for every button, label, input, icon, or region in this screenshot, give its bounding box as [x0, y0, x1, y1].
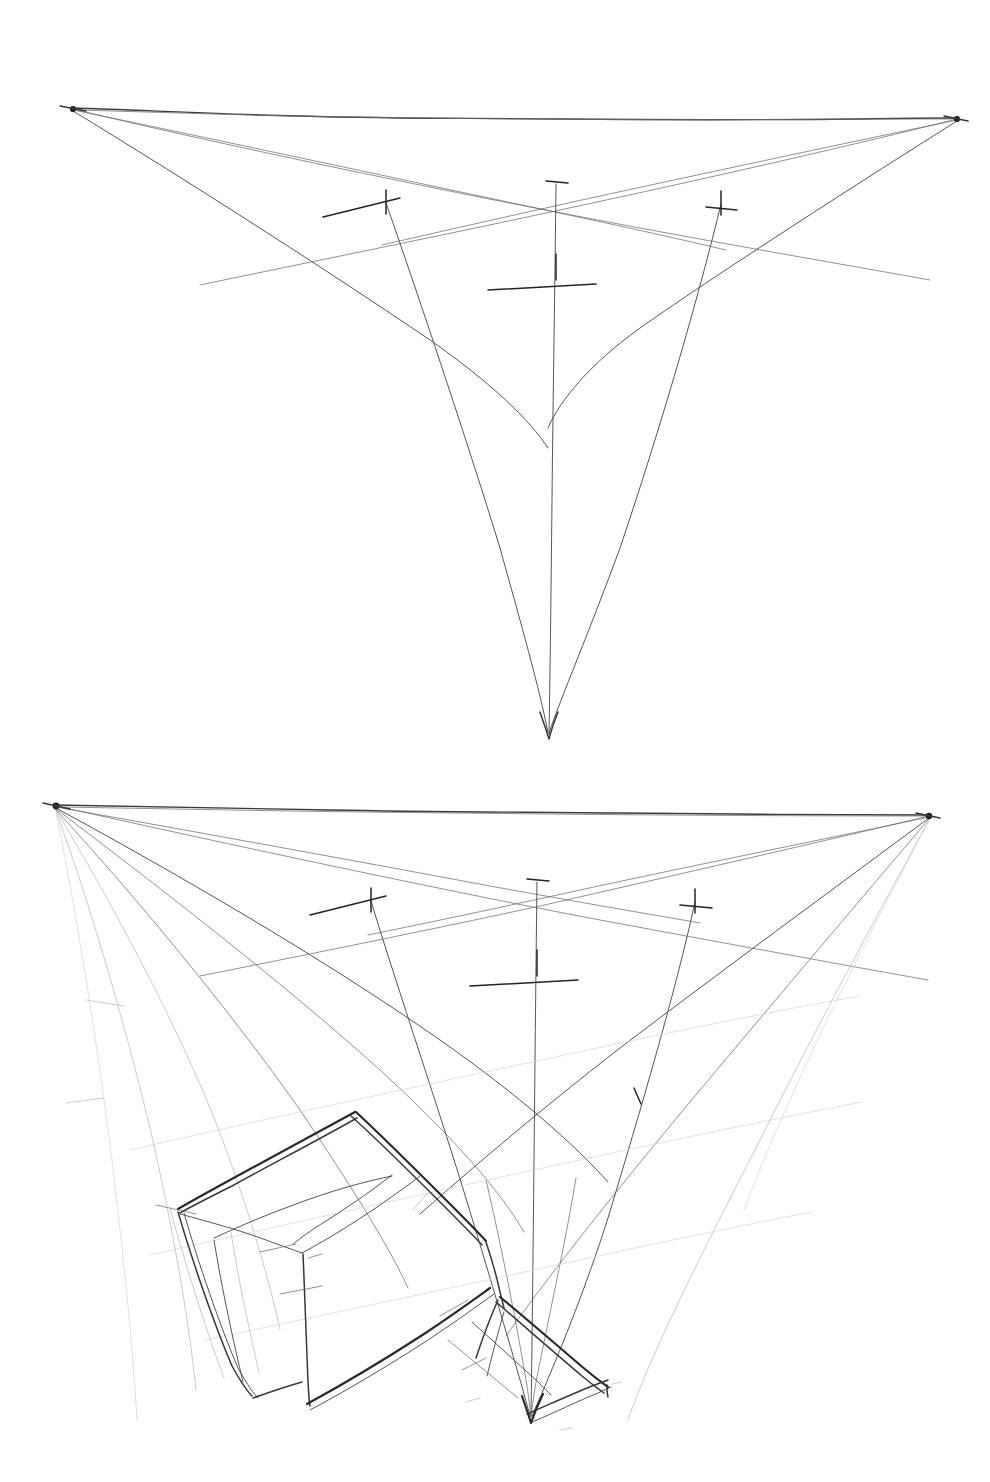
ray-right-to-mark-left: [382, 120, 957, 245]
ray-right-fan-2: [368, 817, 929, 935]
box-facade-line-c: [170, 1208, 224, 1378]
box-stray-mark-a: [260, 1244, 296, 1252]
mark-ray-intersection-bottom: [634, 1088, 641, 1104]
ray-left-fan-5: [56, 810, 408, 1288]
guide-diagonal-b: [150, 1102, 862, 1255]
box-edge-front-vertical: [303, 1254, 310, 1406]
mark-near-left-corner-top: [323, 190, 400, 217]
box-base-edge-front: [307, 1288, 490, 1404]
box-stray-mark-d: [280, 1286, 322, 1294]
wing-inner-line-c: [448, 1340, 518, 1398]
ray-left-fan-1: [56, 806, 928, 980]
mark-back-corner-bottom: [527, 879, 549, 881]
vertical-extra-a: [486, 1180, 531, 1417]
vertical-left-to-vp-bottom: [386, 203, 548, 733]
vertical-left-bottom: [371, 901, 530, 1416]
wing-base-edge: [527, 1380, 608, 1414]
ray-left-fan-6: [56, 810, 280, 1330]
perspective-sketch-canvas: [0, 0, 990, 1482]
tick-mark-guide-b: [66, 1098, 104, 1103]
box-edge-left-vertical: [178, 1212, 252, 1396]
vertical-right-bottom: [532, 902, 695, 1416]
guide-diagonal-a: [130, 996, 860, 1150]
tick-mark-guide-a: [86, 1000, 124, 1006]
ray-left-to-right-near: [73, 109, 930, 280]
box-stray-mark-b: [308, 1254, 322, 1258]
ray-left-to-mark-right: [73, 110, 726, 250]
mark-near-right-corner-top: [706, 191, 737, 215]
ray-right-fan-4: [506, 819, 929, 1336]
wing-stray-e: [466, 1398, 480, 1402]
box-stray-mark-c: [156, 1205, 196, 1214]
mark-near-left-corner-bottom: [310, 888, 386, 915]
mark-front-corner-bottom: [470, 950, 578, 986]
ray-right-down-long: [548, 121, 957, 428]
wing-stray-c: [612, 1382, 622, 1384]
box-roof-far-left: [180, 1214, 302, 1253]
ray-left-fan-4: [56, 809, 524, 1232]
drawing-sheet: Three-Point Perspective Construction Stu…: [0, 0, 990, 1482]
wing-inner-line-a: [472, 1322, 551, 1395]
box-roof-far-right: [302, 1176, 420, 1253]
ray-left-fan-2: [56, 807, 700, 923]
wing-ridge: [500, 1297, 608, 1387]
box-facade-line-a: [214, 1240, 243, 1382]
box-roof-edge-right: [356, 1112, 486, 1241]
panel-top: [60, 106, 968, 739]
mark-back-corner-top: [546, 181, 568, 183]
box-facade-line-b: [230, 1226, 259, 1372]
vertical-center-to-vp-bottom: [549, 184, 556, 734]
ray-right-fan-6: [744, 820, 929, 1210]
box-base-edge-front-echo: [310, 1294, 494, 1410]
box-roof-edge-left-echo: [180, 1118, 357, 1213]
ray-right-fan-3: [420, 818, 929, 1214]
box-roof-edge-left: [178, 1112, 355, 1209]
sketched-box: [156, 1112, 504, 1410]
ray-left-fan-7: [56, 811, 196, 1390]
box-roof-inner-ridge: [293, 1175, 392, 1244]
ray-left-fan-3: [56, 808, 608, 1182]
wing-ridge-echo: [496, 1302, 604, 1393]
vertical-right-to-vp-bottom: [549, 204, 721, 733]
mark-front-corner-top: [488, 254, 596, 290]
wing-base-edge-echo: [532, 1387, 611, 1422]
ray-left-fan-8: [56, 812, 137, 1420]
mark-near-right-corner-bottom: [680, 889, 712, 913]
ray-right-fan-5: [628, 820, 929, 1420]
box-base-edge-left: [253, 1382, 302, 1398]
guide-diagonal-c: [205, 1212, 812, 1340]
wing-stray-d: [560, 1428, 572, 1430]
ray-left-down-long: [73, 111, 548, 448]
panel-bottom: [43, 803, 940, 1430]
